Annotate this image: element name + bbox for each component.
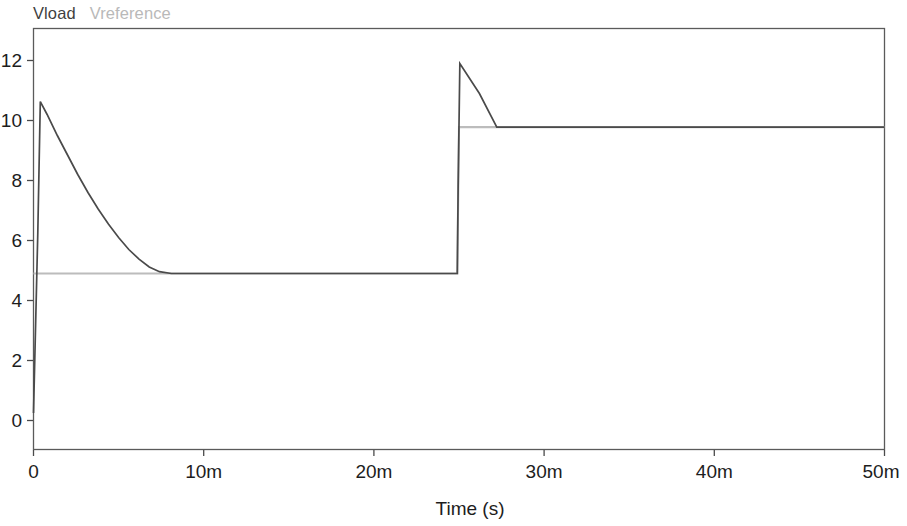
- y-axis-ticks: [27, 61, 33, 421]
- x-axis-tick-labels: 0 10m 20m 30m 40m 50m: [28, 461, 899, 482]
- x-axis-ticks: [34, 450, 885, 456]
- x-axis-title: Time (s): [436, 498, 505, 519]
- x-tick-label-40m: 40m: [696, 461, 733, 482]
- y-tick-label-10: 10: [1, 110, 22, 131]
- x-tick-label-50m: 50m: [863, 461, 900, 482]
- plot-area: 12 10 8 6 4 2 0 0 10m 20m 30m 40m 50m Ti…: [0, 0, 907, 526]
- x-tick-label-0: 0: [28, 461, 39, 482]
- y-tick-label-0: 0: [11, 410, 22, 431]
- y-tick-label-12: 12: [1, 50, 22, 71]
- chart-root: Vload Vreference 12 10 8: [0, 0, 907, 526]
- x-tick-label-30m: 30m: [526, 461, 563, 482]
- x-tick-label-20m: 20m: [355, 461, 392, 482]
- y-tick-label-2: 2: [11, 350, 22, 371]
- x-tick-label-10m: 10m: [185, 461, 222, 482]
- y-tick-label-8: 8: [11, 170, 22, 191]
- y-axis-tick-labels: 12 10 8 6 4 2 0: [1, 50, 23, 431]
- y-tick-label-6: 6: [11, 230, 22, 251]
- y-tick-label-4: 4: [11, 290, 22, 311]
